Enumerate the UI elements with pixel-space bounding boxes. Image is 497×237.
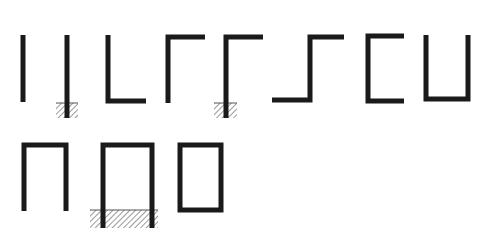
c-frame-shape xyxy=(368,36,404,101)
gamma-frame-members xyxy=(168,37,205,103)
c-frame-members xyxy=(368,36,404,101)
u-frame-shape xyxy=(426,35,468,99)
step-frame-shape xyxy=(272,37,344,100)
portal-frame-fixed-shape xyxy=(90,145,158,228)
portal-frame-members xyxy=(24,145,66,211)
vertical-bar-fixed-shape xyxy=(56,35,78,118)
step-frame-members xyxy=(272,37,344,100)
gamma-frame-shape xyxy=(168,37,205,103)
hatched-ground-support-icon xyxy=(90,210,158,228)
u-frame-members xyxy=(426,35,468,99)
l-frame-shape xyxy=(108,35,146,101)
closed-frame-shape xyxy=(180,145,221,210)
closed-frame-members xyxy=(180,145,221,210)
structural-forms-diagram xyxy=(0,0,497,237)
l-frame-members xyxy=(108,35,146,101)
diagram-svg xyxy=(0,0,497,237)
portal-frame-shape xyxy=(24,145,66,211)
gamma-frame-fixed-shape xyxy=(214,37,263,118)
shapes-layer xyxy=(23,35,468,228)
